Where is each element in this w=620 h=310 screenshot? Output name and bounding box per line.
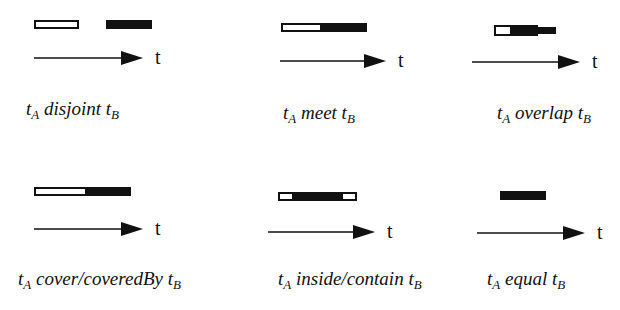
panel-overlap [472,26,580,69]
relation-caption-inside: tA inside/contain tB [278,268,422,293]
interval-b-bar [323,24,366,31]
time-axis-label: t [155,46,161,69]
time-axis-label: t [592,50,598,73]
panel-equal [477,192,585,240]
arrowhead-icon [121,51,143,65]
relation-name: disjoint [44,98,101,119]
time-axis-label: t [597,221,603,244]
relation-caption-overlap: tA overlap tB [497,102,591,127]
interval-b-subscript: B [557,277,565,292]
relation-caption-meet: tA meet tB [283,102,355,127]
interval-a-subscript: A [288,111,296,126]
relation-caption-disjoint: tA disjoint tB [26,98,119,123]
interval-b-bar [295,193,340,200]
relation-caption-cover: tA cover/coveredBy tB [18,268,181,293]
interval-b-subscript: B [347,111,355,126]
interval-a-subscript: A [502,111,510,126]
interval-a-subscript: A [283,277,291,292]
relation-name: meet [301,102,337,123]
relation-name: overlap [515,102,573,123]
interval-b-bar [88,188,130,195]
panel-meet [280,24,386,68]
interval-a-bar [279,193,293,200]
relation-name: equal [505,268,547,289]
relation-name: cover/coveredBy [36,268,163,289]
interval-b-bar [539,28,555,33]
interval-b-subscript: B [173,277,181,292]
arrowhead-icon [364,54,386,68]
arrowhead-icon [353,225,375,239]
interval-a-subscript: A [31,107,39,122]
arrowhead-icon [563,226,585,240]
diagram-canvas [0,0,620,310]
arrowhead-icon [121,222,143,236]
panel-disjoint [34,21,151,65]
interval-b-subscript: B [111,107,119,122]
interval-a-subscript: A [23,277,31,292]
panel-inside [268,193,375,239]
interval-b-subscript: B [583,111,591,126]
time-axis-label: t [387,220,393,243]
interval-a-bar [495,26,511,35]
interval-b-bar [513,26,537,35]
interval-a-bar [35,21,78,28]
time-axis-label: t [398,49,404,72]
relation-caption-equal: tA equal tB [487,268,565,293]
interval-b-bar [107,21,151,28]
time-axis-label: t [155,217,161,240]
interval-b-subscript: B [414,277,422,292]
interval-a-bar [342,193,356,200]
relation-name: inside/contain [296,268,404,289]
interval-b-bar [501,192,545,199]
interval-a-bar [35,188,86,195]
arrowhead-icon [558,55,580,69]
interval-a-bar [282,24,321,31]
interval-a-subscript: A [492,277,500,292]
panel-cover [34,188,143,236]
